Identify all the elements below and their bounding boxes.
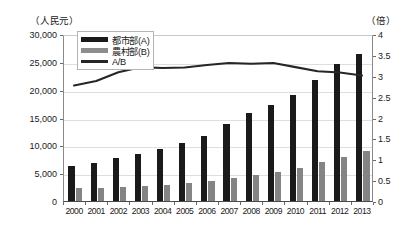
- bar-urban-2002: [113, 158, 119, 201]
- bar-urban-2012: [334, 64, 340, 201]
- left-axis-tick-label: 0: [13, 197, 57, 207]
- bar-rural-2007: [231, 178, 237, 201]
- right-axis-tick-mark: [373, 56, 376, 57]
- left-axis-tick-mark: [60, 119, 63, 120]
- right-axis-tick-label: 4: [378, 30, 383, 40]
- gridline: [64, 120, 372, 121]
- x-axis-tick-mark: [218, 202, 219, 205]
- bar-rural-2001: [98, 188, 104, 201]
- legend-item-rural: 農村部(B): [81, 45, 149, 56]
- right-axis-tick-label: 1: [378, 155, 383, 165]
- left-axis-tick-label: 25,000: [13, 58, 57, 68]
- right-axis-tick-mark: [373, 139, 376, 140]
- bar-urban-2003: [135, 154, 141, 201]
- x-axis-label-2003: 2003: [132, 206, 149, 216]
- right-axis-tick-label: 2.5: [378, 93, 391, 103]
- bar-urban-2008: [246, 113, 252, 201]
- bar-urban-2004: [157, 149, 163, 201]
- left-axis-tick-mark: [60, 174, 63, 175]
- chart-legend: 都市部(A)農村部(B)A/B: [77, 31, 154, 70]
- x-axis-label-2005: 2005: [176, 206, 193, 216]
- x-axis-tick-mark: [373, 202, 374, 205]
- x-axis-tick-mark: [174, 202, 175, 205]
- right-axis-tick-label: 3.5: [378, 51, 391, 61]
- bar-urban-2011: [312, 80, 318, 201]
- chart-container: （人民元） （倍） 05,00010,00015,00020,00025,000…: [0, 0, 414, 238]
- left-axis-tick-label: 5,000: [13, 169, 57, 179]
- right-axis-tick-mark: [373, 77, 376, 78]
- bar-rural-2002: [120, 187, 126, 201]
- bar-rural-2012: [341, 157, 347, 201]
- x-axis-label-2013: 2013: [353, 206, 370, 216]
- bar-urban-2010: [290, 95, 296, 201]
- right-axis-tick-mark: [373, 35, 376, 36]
- x-axis-label-2012: 2012: [331, 206, 348, 216]
- left-axis-unit-label: （人民元）: [30, 13, 79, 27]
- legend-item-ratio: A/B: [81, 56, 149, 67]
- bar-urban-2009: [268, 105, 274, 201]
- bar-rural-2009: [275, 172, 281, 201]
- bar-rural-2000: [76, 188, 82, 201]
- x-axis-tick-mark: [262, 202, 263, 205]
- x-axis-label-2004: 2004: [154, 206, 171, 216]
- x-axis-label-2011: 2011: [309, 206, 326, 216]
- left-axis-tick-label: 10,000: [13, 141, 57, 151]
- bar-urban-2006: [201, 136, 207, 201]
- x-axis-label-2001: 2001: [88, 206, 105, 216]
- legend-swatch-icon-ratio: [81, 60, 108, 63]
- x-axis-tick-mark: [85, 202, 86, 205]
- right-axis-unit-label: （倍）: [366, 13, 395, 27]
- left-axis-tick-mark: [60, 146, 63, 147]
- bar-urban-2005: [179, 143, 185, 201]
- x-axis-label-2002: 2002: [110, 206, 127, 216]
- x-axis-label-2010: 2010: [287, 206, 304, 216]
- gridline: [64, 175, 372, 176]
- left-axis-tick-mark: [60, 35, 63, 36]
- x-axis-label-2009: 2009: [265, 206, 282, 216]
- x-axis-tick-mark: [284, 202, 285, 205]
- right-axis-tick-label: 1.5: [378, 134, 391, 144]
- bar-rural-2008: [253, 175, 259, 201]
- left-axis-tick-label: 30,000: [13, 30, 57, 40]
- bar-rural-2004: [164, 185, 170, 201]
- bar-urban-2000: [68, 166, 74, 201]
- left-axis-tick-mark: [60, 91, 63, 92]
- right-axis-tick-mark: [373, 160, 376, 161]
- bar-rural-2005: [186, 183, 192, 201]
- x-axis-tick-mark: [63, 202, 64, 205]
- right-axis-tick-label: 0.5: [378, 176, 391, 186]
- bar-urban-2007: [223, 124, 229, 201]
- x-axis-tick-mark: [351, 202, 352, 205]
- bar-rural-2003: [142, 186, 148, 201]
- bar-rural-2013: [363, 151, 369, 201]
- left-axis-tick-label: 20,000: [13, 86, 57, 96]
- left-axis-tick-label: 15,000: [13, 114, 57, 124]
- x-axis-tick-mark: [329, 202, 330, 205]
- gridline: [64, 147, 372, 148]
- bar-rural-2006: [208, 181, 214, 201]
- x-axis-tick-mark: [152, 202, 153, 205]
- legend-swatch-icon-urban: [81, 37, 108, 42]
- bar-urban-2001: [91, 163, 97, 201]
- x-axis-tick-mark: [107, 202, 108, 205]
- legend-swatch-icon-rural: [81, 48, 108, 53]
- left-axis-tick-mark: [60, 63, 63, 64]
- legend-label: 農村部(B): [112, 44, 149, 58]
- gridline: [64, 92, 372, 93]
- bar-urban-2013: [356, 54, 362, 201]
- bar-rural-2010: [297, 168, 303, 201]
- x-axis-tick-mark: [196, 202, 197, 205]
- x-axis-label-2007: 2007: [220, 206, 237, 216]
- right-axis-tick-mark: [373, 98, 376, 99]
- x-axis-tick-mark: [240, 202, 241, 205]
- x-axis-tick-mark: [129, 202, 130, 205]
- bar-rural-2011: [319, 162, 325, 201]
- legend-label: A/B: [112, 57, 126, 67]
- x-axis-label-2000: 2000: [65, 206, 82, 216]
- x-axis-label-2006: 2006: [198, 206, 215, 216]
- x-axis-label-2008: 2008: [243, 206, 260, 216]
- right-axis-tick-label: 0: [378, 197, 383, 207]
- x-axis-tick-mark: [307, 202, 308, 205]
- right-axis-tick-mark: [373, 181, 376, 182]
- right-axis-tick-label: 2: [378, 114, 383, 124]
